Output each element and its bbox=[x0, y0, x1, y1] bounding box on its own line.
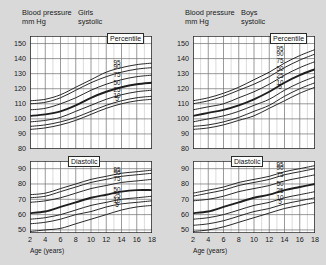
girls-systolic-ytick-140: 140 bbox=[2, 54, 26, 63]
panel-boys: Blood pressuremm Hg Boyssystolic Percent… bbox=[163, 0, 326, 265]
boys-diastolic-ytick-90: 90 bbox=[165, 164, 189, 173]
boys-diastolic-svg bbox=[193, 161, 315, 233]
boys-diastolic-percentile-75: 75 bbox=[273, 171, 287, 178]
girls-systolic-ytick-130: 130 bbox=[2, 69, 26, 78]
boys-systolic-ytick-130: 130 bbox=[165, 69, 189, 78]
girls-xtick-10: 10 bbox=[83, 235, 99, 244]
girls-diastolic-ytick-60: 60 bbox=[2, 210, 26, 219]
boys-percentile-title: Percentile bbox=[270, 33, 307, 44]
girls-xtick-16: 16 bbox=[129, 235, 145, 244]
girls-systolic-ytick-150: 150 bbox=[2, 39, 26, 48]
girls-xtick-6: 6 bbox=[53, 235, 69, 244]
girls-header-sex: Girlssystolic bbox=[78, 8, 102, 26]
girls-xtick-12: 12 bbox=[98, 235, 114, 244]
girls-systolic-svg bbox=[30, 36, 152, 149]
boys-diastolic-plot bbox=[193, 161, 315, 233]
girls-systolic-ytick-100: 100 bbox=[2, 114, 26, 123]
boys-header-sex: Boyssystolic bbox=[241, 8, 265, 26]
boys-diastolic-ytick-80: 80 bbox=[165, 179, 189, 188]
boys-xtick-18: 18 bbox=[307, 235, 323, 244]
girls-systolic-ytick-110: 110 bbox=[2, 99, 26, 108]
boys-diastolic-percentile-5: 5 bbox=[273, 198, 287, 205]
boys-diastolic-ytick-60: 60 bbox=[165, 210, 189, 219]
girls-systolic-ytick-90: 90 bbox=[2, 129, 26, 138]
boys-xtick-16: 16 bbox=[292, 235, 308, 244]
boys-xtick-4: 4 bbox=[200, 235, 216, 244]
boys-xtick-10: 10 bbox=[246, 235, 262, 244]
girls-systolic-percentile-50: 50 bbox=[110, 79, 124, 86]
boys-systolic-ytick-140: 140 bbox=[165, 54, 189, 63]
boys-diastolic-ytick-50: 50 bbox=[165, 225, 189, 234]
girls-diastolic-title: Diastolic bbox=[68, 156, 100, 167]
girls-xtick-2: 2 bbox=[22, 235, 38, 244]
boys-systolic-percentile-50: 50 bbox=[273, 65, 287, 72]
boys-systolic-percentile-5: 5 bbox=[273, 83, 287, 90]
girls-xtick-18: 18 bbox=[144, 235, 160, 244]
girls-xtick-8: 8 bbox=[68, 235, 84, 244]
boys-xtick-14: 14 bbox=[277, 235, 293, 244]
boys-systolic-percentile-75: 75 bbox=[273, 57, 287, 64]
boys-systolic-ytick-90: 90 bbox=[165, 129, 189, 138]
girls-systolic-percentile-90: 90 bbox=[110, 63, 124, 70]
boys-header-blood-pressure: Blood pressuremm Hg bbox=[185, 8, 235, 26]
girls-xaxis-title: Age (years) bbox=[30, 247, 64, 254]
girls-systolic-percentile-75: 75 bbox=[110, 71, 124, 78]
boys-systolic-ytick-120: 120 bbox=[165, 84, 189, 93]
girls-xtick-14: 14 bbox=[114, 235, 130, 244]
boys-xtick-6: 6 bbox=[216, 235, 232, 244]
boys-systolic-percentile-90: 90 bbox=[273, 50, 287, 57]
boys-xtick-2: 2 bbox=[185, 235, 201, 244]
girls-xtick-4: 4 bbox=[37, 235, 53, 244]
boys-systolic-plot bbox=[193, 36, 315, 149]
girls-percentile-title: Percentile bbox=[107, 33, 144, 44]
panel-girls: Blood pressuremm Hg Girlssystolic Percen… bbox=[0, 0, 163, 265]
girls-systolic-ytick-120: 120 bbox=[2, 84, 26, 93]
girls-diastolic-ytick-90: 90 bbox=[2, 164, 26, 173]
girls-diastolic-ytick-50: 50 bbox=[2, 225, 26, 234]
boys-xtick-12: 12 bbox=[261, 235, 277, 244]
boys-systolic-svg bbox=[193, 36, 315, 149]
girls-diastolic-ytick-70: 70 bbox=[2, 195, 26, 204]
boys-systolic-ytick-100: 100 bbox=[165, 114, 189, 123]
girls-diastolic-ytick-80: 80 bbox=[2, 179, 26, 188]
girls-diastolic-svg bbox=[30, 161, 152, 233]
girls-diastolic-percentile-75: 75 bbox=[110, 175, 124, 182]
girls-systolic-ytick-80: 80 bbox=[2, 144, 26, 153]
boys-diastolic-ytick-70: 70 bbox=[165, 195, 189, 204]
girls-systolic-percentile-5: 5 bbox=[110, 95, 124, 102]
boys-systolic-ytick-110: 110 bbox=[165, 99, 189, 108]
boys-systolic-ytick-150: 150 bbox=[165, 39, 189, 48]
girls-diastolic-plot bbox=[30, 161, 152, 233]
boys-diastolic-percentile-50: 50 bbox=[273, 180, 287, 187]
boys-xtick-8: 8 bbox=[231, 235, 247, 244]
girls-header-blood-pressure: Blood pressuremm Hg bbox=[22, 8, 72, 26]
boys-xaxis-title: Age (years) bbox=[193, 247, 227, 254]
boys-systolic-ytick-80: 80 bbox=[165, 144, 189, 153]
girls-diastolic-percentile-5: 5 bbox=[110, 201, 124, 208]
boys-diastolic-title: Diastolic bbox=[231, 156, 263, 167]
girls-systolic-plot bbox=[30, 36, 152, 149]
